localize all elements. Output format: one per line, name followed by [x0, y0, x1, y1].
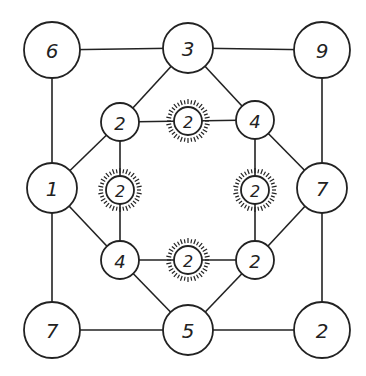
- node-label: 2: [115, 182, 125, 201]
- node-label: 9: [316, 39, 329, 63]
- node-label: 7: [46, 319, 59, 343]
- node: 5: [163, 305, 213, 355]
- node-label: 4: [249, 111, 260, 132]
- node-label: 2: [249, 251, 260, 272]
- node: 7: [24, 302, 80, 358]
- node: 9: [294, 22, 350, 78]
- node: 1: [27, 163, 77, 213]
- node-label: 7: [316, 177, 329, 201]
- node: 2: [236, 241, 274, 279]
- puzzle-graph: 6391775224422222: [0, 0, 366, 376]
- node-label: 4: [114, 251, 125, 272]
- node-label: 2: [250, 182, 260, 201]
- node-label: 2: [183, 113, 193, 132]
- node: 4: [236, 101, 274, 139]
- node-label: 2: [114, 113, 125, 134]
- node-label: 3: [182, 37, 195, 61]
- node-label: 2: [183, 252, 193, 271]
- node-label: 6: [46, 39, 59, 63]
- node-label: 1: [46, 177, 59, 201]
- node: 4: [101, 241, 139, 279]
- node: 3: [163, 23, 213, 73]
- node-label: 2: [316, 319, 329, 343]
- edge-layer: [52, 48, 322, 330]
- node-layer: 6391775224422222: [24, 22, 350, 358]
- node-label: 5: [182, 319, 195, 343]
- node: 2: [101, 103, 139, 141]
- node: 2: [294, 302, 350, 358]
- node: 7: [297, 163, 347, 213]
- node: 6: [24, 22, 80, 78]
